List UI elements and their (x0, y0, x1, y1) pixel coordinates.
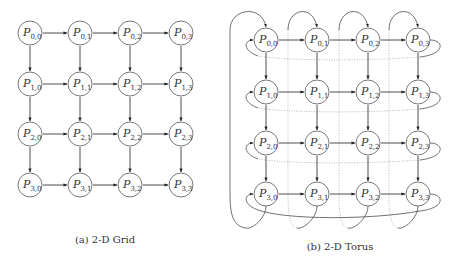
node-grid-2-3: P2,3 (169, 122, 193, 146)
node-torus-3-2: P3,2 (356, 182, 380, 206)
node-grid-1-2: P1,2 (118, 72, 142, 96)
node-torus-2-0: P2,0 (254, 131, 278, 155)
torus-caption: (b) 2-D Torus (307, 241, 374, 252)
node-torus-0-0: P0,0 (254, 28, 278, 52)
diagram-canvas: P0,0P0,1P0,2P0,3P1,0P1,1P1,2P1,3P2,0P2,1… (0, 0, 462, 262)
node-torus-3-0: P3,0 (254, 182, 278, 206)
node-grid-0-1: P0,1 (68, 21, 92, 45)
node-grid-3-2: P3,2 (118, 173, 142, 197)
col-wrap-return (230, 30, 246, 228)
node-grid-1-1: P1,1 (68, 72, 92, 96)
node-torus-0-1: P0,1 (305, 28, 329, 52)
col-wrap-top (230, 12, 266, 30)
row-wrap-return (258, 210, 420, 218)
node-grid-0-0: P0,0 (18, 21, 42, 45)
col-wrap-top (288, 12, 317, 30)
node-grid-3-0: P3,0 (18, 173, 42, 197)
col-wrap-top (339, 12, 368, 30)
node-torus-3-3: P3,3 (406, 182, 430, 206)
node-torus-1-0: P1,0 (254, 80, 278, 104)
col-wrap-top (389, 12, 418, 30)
node-grid-2-2: P2,2 (118, 122, 142, 146)
node-torus-1-3: P1,3 (406, 80, 430, 104)
node-torus-0-3: P0,3 (406, 28, 430, 52)
node-grid-0-2: P0,2 (118, 21, 142, 45)
node-torus-1-2: P1,2 (356, 80, 380, 104)
grid-caption: (a) 2-D Grid (75, 234, 135, 245)
node-grid-1-0: P1,0 (18, 72, 42, 96)
node-torus-2-3: P2,3 (406, 131, 430, 155)
node-torus-2-1: P2,1 (305, 131, 329, 155)
grid-diagram: P0,0P0,1P0,2P0,3P1,0P1,1P1,2P1,3P2,0P2,1… (18, 21, 193, 197)
col-wrap-return (389, 30, 398, 228)
node-torus-0-2: P0,2 (356, 28, 380, 52)
node-torus-3-1: P3,1 (305, 182, 329, 206)
col-wrap-return (288, 30, 297, 228)
col-wrap-bottom (398, 206, 418, 228)
node-grid-0-3: P0,3 (169, 21, 193, 45)
torus-diagram: P0,0P0,1P0,2P0,3P1,0P1,1P1,2P1,3P2,0P2,1… (230, 12, 440, 229)
node-torus-2-2: P2,2 (356, 131, 380, 155)
node-grid-2-0: P2,0 (18, 122, 42, 146)
node-grid-3-3: P3,3 (169, 173, 193, 197)
node-grid-1-3: P1,3 (169, 72, 193, 96)
node-grid-2-1: P2,1 (68, 122, 92, 146)
node-torus-1-1: P1,1 (305, 80, 329, 104)
node-grid-3-1: P3,1 (68, 173, 92, 197)
